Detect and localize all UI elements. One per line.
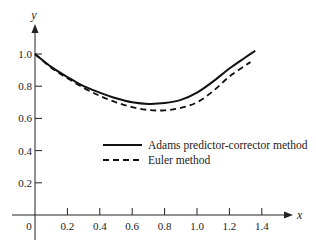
x-axis-arrow-icon xyxy=(284,212,293,219)
chart: xy 00.20.40.60.81.01.21.40.20.40.60.81.0… xyxy=(0,0,316,248)
y-axis-label: y xyxy=(30,8,37,22)
x-tick-label: 0.4 xyxy=(93,220,107,232)
series-line-adams xyxy=(35,51,255,104)
series-line-euler xyxy=(35,54,251,111)
x-tick-label: 1.2 xyxy=(223,220,237,232)
y-tick-label: 0.2 xyxy=(18,177,32,189)
y-tick-label: 0.8 xyxy=(18,80,32,92)
x-tick-label: 1.4 xyxy=(255,220,269,232)
x-tick-label: 0.6 xyxy=(125,220,139,232)
y-tick-label: 1.0 xyxy=(18,48,32,60)
x-tick-label: 0 xyxy=(26,220,32,232)
x-axis-label: x xyxy=(296,208,303,222)
y-tick-label: 0.6 xyxy=(18,112,32,124)
y-tick-label: 0.4 xyxy=(18,145,32,157)
x-tick-label: 0.8 xyxy=(158,220,172,232)
x-tick-label: 0.2 xyxy=(61,220,75,232)
x-tick-label: 1.0 xyxy=(190,220,204,232)
y-axis-arrow-icon xyxy=(32,24,39,33)
legend-label-adams: Adams predictor-corrector method xyxy=(148,139,308,152)
legend-label-euler: Euler method xyxy=(148,154,211,166)
legend: Adams predictor-corrector methodEuler me… xyxy=(103,139,308,166)
axes: xy xyxy=(12,8,303,240)
series-group xyxy=(35,51,255,111)
